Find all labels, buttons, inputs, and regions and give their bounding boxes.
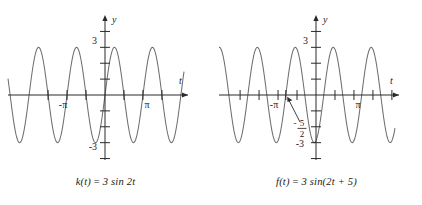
annotation-denominator: 2 (300, 129, 305, 139)
y-tick-label-positive-3: 3 (303, 35, 308, 46)
x-axis-label: t (390, 75, 393, 86)
x-tick-label-negative-pi: -π (59, 99, 67, 110)
caption-left-expression: 3 sin 2t (103, 176, 136, 187)
caption-left: k(t) = 3 sin 2t (0, 176, 211, 187)
annotation-numerator: 5 (300, 118, 305, 128)
y-axis-label: y (322, 14, 328, 25)
y-tick-label-positive-3: 3 (92, 35, 97, 46)
caption-left-equals: = (91, 176, 103, 187)
annotation-minus-sign: - (294, 118, 297, 128)
x-axis-left (8, 92, 188, 97)
figure-root: t y 3 -3 -π π k(t) = 3 sin 2t t y (0, 0, 422, 205)
y-axis-right (313, 15, 318, 160)
y-axis-left (102, 15, 107, 160)
plot-right: t y 3 -3 -π π - 5 2 (211, 0, 422, 176)
y-tick-label-negative-3: -3 (89, 141, 97, 152)
y-axis-label: y (111, 14, 117, 25)
annotation-negative-five-halves: - 5 2 (294, 118, 307, 139)
caption-right-function-name: f(t) (276, 176, 290, 187)
caption-right-equals: = (290, 176, 302, 187)
panel-right: t y 3 -3 -π π - 5 2 f(t) = 3 sin(2t + 5) (211, 0, 422, 205)
x-tick-label-negative-pi: -π (270, 99, 278, 110)
y-tick-label-negative-3: -3 (296, 138, 304, 149)
panel-left: t y 3 -3 -π π k(t) = 3 sin 2t (0, 0, 211, 205)
x-axis-label: t (179, 75, 182, 86)
caption-right-expression: 3 sin(2t + 5) (301, 176, 356, 187)
caption-right: f(t) = 3 sin(2t + 5) (211, 176, 422, 187)
x-tick-label-pi: π (144, 99, 149, 110)
x-tick-label-pi: π (355, 99, 360, 110)
plot-left: t y 3 -3 -π π (0, 0, 211, 176)
x-axis-right (219, 92, 399, 97)
caption-left-function-name: k(t) (76, 176, 91, 187)
